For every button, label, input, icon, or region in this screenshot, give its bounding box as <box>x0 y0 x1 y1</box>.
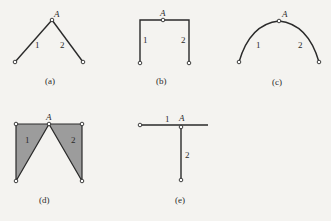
joint-label: A <box>45 112 52 122</box>
support-node-left <box>14 179 18 183</box>
figure-a: A 1 2 (a) <box>13 9 85 86</box>
hinge-node-A <box>179 125 183 129</box>
node-top-right <box>80 122 84 126</box>
caption-e: (e) <box>175 195 185 205</box>
caption-a: (a) <box>45 76 55 86</box>
joint-label: A <box>281 9 288 19</box>
plate-1 <box>16 124 49 181</box>
hinge-node-A <box>47 122 51 126</box>
member-2 <box>52 20 83 62</box>
hinge-node-A <box>161 18 165 22</box>
figure-d: A 1 2 (d) <box>14 112 84 205</box>
member-label-1: 1 <box>165 114 170 124</box>
joint-label: A <box>178 113 185 123</box>
caption-b: (b) <box>156 76 167 86</box>
member-label-1: 1 <box>143 35 148 45</box>
member-1 <box>15 20 52 62</box>
member-label-2: 2 <box>185 150 190 160</box>
joint-label: A <box>159 8 166 18</box>
member-label-2: 2 <box>298 40 303 50</box>
caption-c: (c) <box>272 77 282 87</box>
member-label-2: 2 <box>60 40 65 50</box>
support-node-right <box>317 60 321 64</box>
hinge-diagrams: A 1 2 (a) A 1 2 (b) A 1 2 (c) A 1 <box>0 0 331 221</box>
figure-b: A 1 2 (b) <box>138 8 191 86</box>
caption-d: (d) <box>39 195 50 205</box>
support-node-left <box>138 61 142 65</box>
hinge-node-A <box>277 19 281 23</box>
node-top-left <box>14 122 18 126</box>
plate-2 <box>49 124 82 181</box>
member-label-2: 2 <box>181 35 186 45</box>
member-label-1: 1 <box>256 40 261 50</box>
figure-c: A 1 2 (c) <box>237 9 321 87</box>
member-label-1: 1 <box>25 135 30 145</box>
joint-label: A <box>53 9 60 19</box>
support-node-left <box>13 60 17 64</box>
support-node-left <box>138 123 142 127</box>
support-node-bottom <box>179 178 183 182</box>
figure-e: A 1 2 (e) <box>138 113 208 205</box>
support-node-right <box>80 179 84 183</box>
support-node-right <box>187 61 191 65</box>
member-label-1: 1 <box>35 40 40 50</box>
member-label-2: 2 <box>71 135 76 145</box>
support-node-left <box>237 60 241 64</box>
support-node-right <box>81 60 85 64</box>
